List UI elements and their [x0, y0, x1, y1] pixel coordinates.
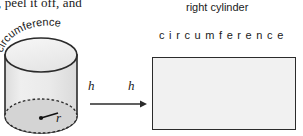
transform-arrow-head: [140, 101, 147, 108]
height-label-left: h: [88, 78, 95, 94]
cylinder-top: [5, 38, 77, 72]
radius-label: r: [56, 110, 61, 126]
figure-canvas: , peel it off, and right cylinder circum…: [0, 0, 303, 136]
height-label-right: h: [128, 78, 135, 94]
center-dot: [39, 116, 43, 120]
cylinder-graphic: circumference: [0, 0, 303, 136]
